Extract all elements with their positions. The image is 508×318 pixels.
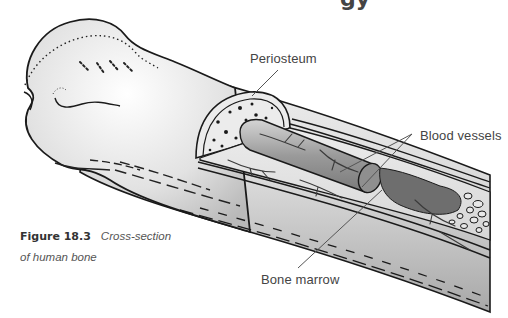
figure-title-line1: Cross-section (101, 230, 171, 242)
bone-cross-section-illustration (0, 0, 508, 318)
figure-title-line2: of human bone (20, 251, 97, 263)
label-periosteum: Periosteum (250, 51, 317, 66)
label-blood-vessels: Blood vessels (420, 128, 502, 143)
figure-number: Figure 18.3 (20, 230, 91, 243)
figure-caption: Figure 18.3Cross-section of human bone (20, 226, 171, 268)
periosteum-leader (252, 70, 278, 96)
label-bone-marrow: Bone marrow (261, 272, 339, 287)
